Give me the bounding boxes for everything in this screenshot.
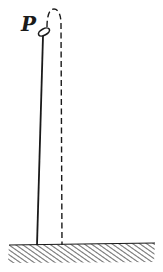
ball-icon xyxy=(37,26,51,37)
point-p-label: P xyxy=(21,14,36,34)
diagram-svg xyxy=(0,0,163,272)
tower-line xyxy=(37,36,43,245)
diagram-canvas: P xyxy=(0,0,163,272)
ground xyxy=(0,240,163,270)
trajectory-dashed-path xyxy=(47,9,62,245)
